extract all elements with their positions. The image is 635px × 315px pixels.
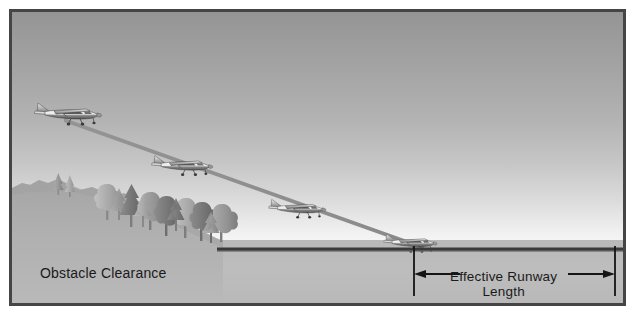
- figure-frame: Obstacle Clearance Effective Runway Leng…: [9, 9, 626, 306]
- effective-runway-line-1: Effective Runway: [450, 269, 557, 284]
- effective-runway-dimension: [12, 12, 623, 303]
- obstacle-clearance-label: Obstacle Clearance: [40, 265, 167, 281]
- effective-runway-length-label: Effective Runway Length: [450, 269, 557, 299]
- effective-runway-line-2: Length: [450, 284, 557, 299]
- figure-root: Obstacle Clearance Effective Runway Leng…: [0, 0, 635, 315]
